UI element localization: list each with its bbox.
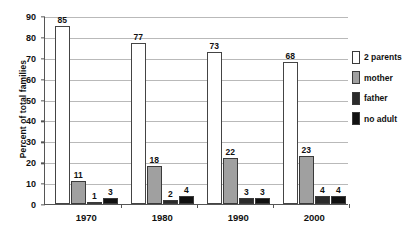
x-tick-mark bbox=[349, 204, 350, 208]
y-tick-label: 10 bbox=[10, 179, 36, 189]
bar-mother-2000 bbox=[299, 156, 314, 204]
x-tick-mark bbox=[197, 204, 198, 208]
bar-father-1980 bbox=[163, 200, 178, 204]
bar-father-1970 bbox=[87, 202, 102, 204]
y-tick-label: 70 bbox=[10, 54, 36, 64]
x-tick-mark bbox=[121, 204, 122, 208]
x-category-label-2000: 2000 bbox=[263, 212, 366, 223]
y-tick-label: 80 bbox=[10, 33, 36, 43]
legend-item-no-adult[interactable]: no adult bbox=[352, 109, 402, 130]
y-tick-mark bbox=[41, 204, 45, 205]
bar-value-label: 3 bbox=[99, 187, 122, 197]
bar-value-label: 11 bbox=[67, 170, 90, 180]
bar-value-label: 77 bbox=[127, 32, 150, 42]
bar-2-parents-2000 bbox=[283, 62, 298, 204]
y-tick-label: 40 bbox=[10, 116, 36, 126]
x-tick-mark bbox=[273, 204, 274, 208]
bar-value-label: 18 bbox=[143, 155, 166, 165]
bar-no-adult-2000 bbox=[331, 196, 346, 204]
bar-father-2000 bbox=[315, 196, 330, 204]
bars-layer: 851113771824732233682344 bbox=[45, 17, 348, 204]
bar-value-label: 68 bbox=[279, 51, 302, 61]
legend-item-mother[interactable]: mother bbox=[352, 68, 402, 89]
bar-father-1990 bbox=[239, 198, 254, 204]
legend-label: no adult bbox=[364, 114, 397, 124]
bar-mother-1990 bbox=[223, 158, 238, 204]
y-tick-label: 60 bbox=[10, 75, 36, 85]
y-tick-label: 0 bbox=[10, 200, 36, 210]
bar-no-adult-1970 bbox=[103, 198, 118, 204]
bar-2-parents-1990 bbox=[207, 52, 222, 204]
bar-value-label: 85 bbox=[51, 15, 74, 25]
bar-no-adult-1980 bbox=[179, 196, 194, 204]
legend-swatch-icon bbox=[352, 71, 360, 84]
legend-swatch-icon bbox=[352, 112, 360, 125]
legend-swatch-icon bbox=[352, 51, 360, 64]
legend-label: 2 parents bbox=[364, 52, 402, 62]
legend-item-father[interactable]: father bbox=[352, 88, 402, 109]
y-tick-label: 30 bbox=[10, 137, 36, 147]
bar-value-label: 23 bbox=[295, 145, 318, 155]
bar-value-label: 73 bbox=[203, 41, 226, 51]
bar-value-label: 3 bbox=[251, 187, 274, 197]
y-tick-label: 20 bbox=[10, 158, 36, 168]
legend-label: mother bbox=[364, 73, 393, 83]
bar-value-label: 4 bbox=[327, 185, 350, 195]
y-tick-label: 90 bbox=[10, 12, 36, 22]
plot-area: 0102030405060708090 85111377182473223368… bbox=[44, 17, 348, 205]
bar-value-label: 4 bbox=[175, 185, 198, 195]
legend-item-2-parents[interactable]: 2 parents bbox=[352, 47, 402, 68]
y-tick-label: 50 bbox=[10, 96, 36, 106]
legend: 2 parentsmotherfatherno adult bbox=[352, 47, 402, 129]
bar-value-label: 22 bbox=[219, 147, 242, 157]
legend-swatch-icon bbox=[352, 92, 360, 105]
bar-no-adult-1990 bbox=[255, 198, 270, 204]
legend-label: father bbox=[364, 93, 388, 103]
bar-2-parents-1980 bbox=[131, 43, 146, 204]
